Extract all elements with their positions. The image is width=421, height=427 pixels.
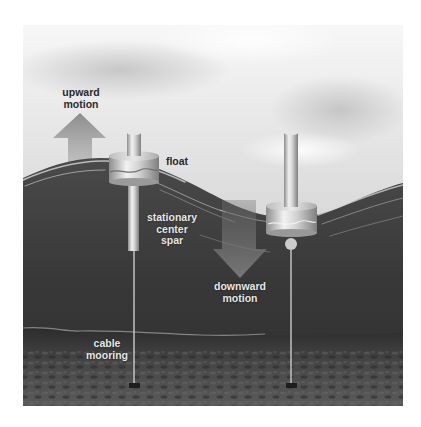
center-spar [284,133,298,207]
illustration-canvas [0,0,421,427]
label-downward-motion: downward motion [212,281,268,304]
spar-top [127,133,141,156]
cloud [240,132,360,168]
anchor [286,383,297,388]
label-float: float [164,156,190,168]
label-upward-motion: upward motion [58,87,104,110]
spar-glow [285,238,297,250]
wave-energy-diagram: upward motion float stationary center sp… [0,0,421,427]
center-spar [128,180,139,251]
label-stationary-center-spar: stationary center spar [144,212,200,247]
anchor [129,383,140,388]
label-cable-mooring: cable mooring [84,338,130,361]
cloud [160,15,340,65]
